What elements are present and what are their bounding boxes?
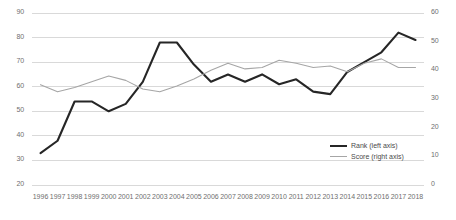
x-axis-tick-label: 2003 [152, 193, 168, 200]
x-axis-tick-label: 2006 [203, 193, 219, 200]
x-axis-tick-label: 2004 [169, 193, 185, 200]
legend-label-score: Score (right axis) [351, 153, 404, 160]
y-axis-right-tick-label: 0 [431, 180, 453, 187]
x-axis-tick-label: 2010 [271, 193, 287, 200]
x-axis-tick-label: 2015 [357, 193, 373, 200]
y-axis-left-tick-label: 30 [2, 155, 24, 162]
x-axis-tick-label: 1998 [67, 193, 83, 200]
x-axis-tick-label: 2017 [391, 193, 407, 200]
x-axis-tick-label: 1999 [84, 193, 100, 200]
x-axis-tick-label: 2000 [101, 193, 117, 200]
y-axis-right-tick-label: 60 [431, 8, 453, 15]
y-axis-left-tick-label: 40 [2, 131, 24, 138]
y-axis-left-tick-label: 50 [2, 106, 24, 113]
x-axis-tick-label: 2005 [186, 193, 202, 200]
x-axis-tick-label: 2016 [374, 193, 390, 200]
y-axis-left-tick-label: 80 [2, 33, 24, 40]
y-axis-left-tick-label: 20 [2, 180, 24, 187]
series-group [41, 33, 416, 153]
x-axis-tick-label: 2007 [220, 193, 236, 200]
series-line-rank [41, 33, 416, 153]
chart-legend: Rank (left axis) Score (right axis) [330, 140, 404, 162]
x-axis-tick-label: 1996 [33, 193, 49, 200]
y-axis-left-tick-label: 90 [2, 8, 24, 15]
legend-item-score: Score (right axis) [330, 151, 404, 162]
x-axis-tick-label: 2011 [289, 193, 304, 200]
x-axis-tick-label: 2009 [254, 193, 270, 200]
legend-swatch-rank-icon [330, 145, 347, 147]
y-axis-right-tick-label: 40 [431, 65, 453, 72]
x-axis-tick-label: 2014 [340, 193, 356, 200]
legend-label-rank: Rank (left axis) [351, 142, 398, 149]
y-axis-left-tick-label: 60 [2, 82, 24, 89]
x-axis-tick-label: 2013 [322, 193, 338, 200]
x-axis-tick-label: 2008 [237, 193, 253, 200]
x-axis-tick-label: 1997 [50, 193, 66, 200]
y-axis-left-tick-label: 70 [2, 57, 24, 64]
x-axis-tick-label: 2002 [135, 193, 151, 200]
x-axis-tick-label: 2018 [408, 193, 424, 200]
chart-container: 2030405060708090 0102030405060 199619971… [0, 0, 456, 220]
x-axis-tick-label: 2012 [305, 193, 321, 200]
y-axis-right-tick-label: 10 [431, 151, 453, 158]
legend-swatch-score-icon [330, 156, 347, 157]
chart-plot-area [0, 0, 456, 220]
legend-item-rank: Rank (left axis) [330, 140, 404, 151]
x-axis-tick-label: 2001 [118, 193, 134, 200]
y-axis-right-tick-label: 20 [431, 123, 453, 130]
y-axis-right-tick-label: 30 [431, 94, 453, 101]
y-axis-right-tick-label: 50 [431, 37, 453, 44]
